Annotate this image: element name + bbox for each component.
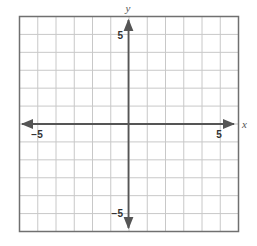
x-axis-label: x [241,118,247,130]
y-axis-label: y [125,2,131,14]
x-tick-label-left: −5 [31,129,43,140]
x-tick-label-right: 5 [216,129,222,140]
y-tick-label-bottom: −5 [112,208,124,219]
coordinate-plane: y x 5 −5 −5 5 [0,0,257,246]
y-tick-label-top: 5 [117,30,123,41]
